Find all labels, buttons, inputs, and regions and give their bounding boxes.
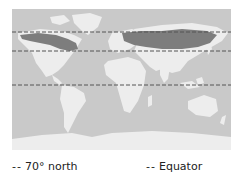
legend-item-equator: --Equator (146, 160, 202, 173)
legend-label: Equator (159, 160, 202, 173)
legend-label: 70° north (25, 160, 78, 173)
map-graphic (12, 9, 231, 150)
dashed-line-icon: -- (12, 160, 22, 173)
world-map (12, 9, 231, 150)
legend-item-70-north: --70° north (12, 160, 77, 173)
dashed-line-icon: -- (146, 160, 156, 173)
